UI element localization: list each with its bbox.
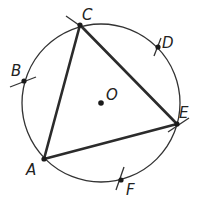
segment-ea xyxy=(44,124,177,159)
point-a xyxy=(41,156,46,161)
label-a: A xyxy=(25,161,36,179)
segment-ac xyxy=(44,25,80,159)
label-c: C xyxy=(82,6,93,24)
point-d xyxy=(155,44,160,49)
label-e: E xyxy=(179,104,189,122)
point-o xyxy=(98,100,104,106)
label-d: D xyxy=(162,34,174,52)
label-o: O xyxy=(106,86,118,104)
label-f: F xyxy=(126,181,135,199)
label-b: B xyxy=(11,62,21,80)
point-b xyxy=(21,78,26,83)
inscribed-triangle-diagram: C D B O E A F xyxy=(0,0,201,203)
point-e xyxy=(174,121,179,126)
point-f xyxy=(118,177,123,182)
